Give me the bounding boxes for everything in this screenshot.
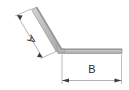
dimension-a-arrowhead-bottom	[37, 52, 43, 57]
dimension-a-extension-line-bottom	[41, 52, 57, 59]
dimension-b-arrowhead-left	[62, 78, 69, 82]
bent-bar-diagram-svg: A B	[0, 0, 129, 90]
dimension-b-arrowhead-right	[115, 78, 122, 82]
bar-inclined-edge-highlight	[37, 8, 62, 50]
dimension-a-arrowhead-top	[17, 15, 23, 20]
technical-drawing-canvas: A B	[0, 0, 129, 90]
dimension-a-label: A	[24, 33, 38, 46]
dimension-b-label: B	[88, 63, 95, 75]
dimension-b-group: B	[62, 55, 122, 85]
bent-bar-part	[32, 7, 123, 54]
